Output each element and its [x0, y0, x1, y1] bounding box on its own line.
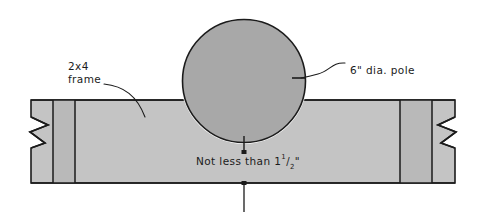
- inch-mark: ": [295, 155, 300, 167]
- leader-line-pole: [301, 63, 345, 78]
- stud-panel-left: [53, 100, 75, 183]
- fraction-numerator: 1: [281, 153, 286, 161]
- drawing-canvas: 2x4 frame 6" dia. pole Not less than 11/…: [0, 0, 486, 212]
- fraction-one-half: 1/2: [281, 154, 295, 170]
- fraction-denominator: 2: [290, 163, 295, 171]
- pole-circle: [183, 20, 306, 143]
- label-2x4-frame-line1: 2x4: [68, 60, 89, 72]
- label-2x4-frame: 2x4 frame: [68, 60, 101, 86]
- label-2x4-frame-line2: frame: [68, 73, 101, 86]
- label-minimum-clearance: Not less than 11/2": [196, 154, 300, 170]
- label-pole-diameter: 6" dia. pole: [350, 64, 415, 76]
- stud-panel-right: [400, 100, 432, 183]
- label-clearance-text: Not less than 1: [196, 155, 281, 167]
- construction-detail-diagram: [0, 0, 486, 212]
